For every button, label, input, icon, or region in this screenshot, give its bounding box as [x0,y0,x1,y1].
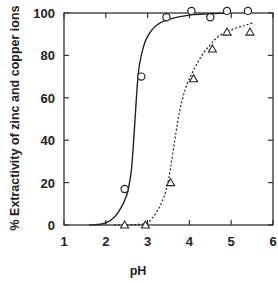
y-tick-label: 60 [41,91,55,106]
circle-marker [207,14,214,21]
x-tick-label: 2 [102,234,109,249]
circle-marker [138,73,145,80]
y-axis-title: % Extractivity of zinc and copper ions [8,5,22,230]
triangle-marker [246,28,254,35]
data-markers [121,7,254,228]
circles-fit-curve [89,13,227,225]
fit-curves [89,13,254,225]
x-tick-label: 3 [144,234,151,249]
y-tick-label: 80 [41,48,55,63]
x-axis-title: pH [130,264,147,278]
x-tick-label: 6 [269,234,276,249]
x-tick-label: 4 [186,234,194,249]
circle-marker [223,7,230,14]
plot-border [64,13,273,225]
circle-marker [188,7,195,14]
triangle-marker [223,28,231,35]
y-tick-label: 40 [41,133,55,148]
x-tick-label: 5 [228,234,235,249]
x-axis-ticks: 123456 [60,13,276,249]
y-tick-label: 20 [41,176,55,191]
y-axis-ticks: 020406080100 [33,6,273,233]
x-tick-label: 1 [60,234,67,249]
extractivity-chart: 020406080100 123456 pH % Extractivity of… [0,0,278,283]
y-tick-label: 0 [48,218,55,233]
y-tick-label: 100 [33,6,55,21]
plot-frame [64,13,273,225]
circle-marker [244,7,251,14]
circle-marker [121,185,128,192]
circle-marker [163,14,170,21]
